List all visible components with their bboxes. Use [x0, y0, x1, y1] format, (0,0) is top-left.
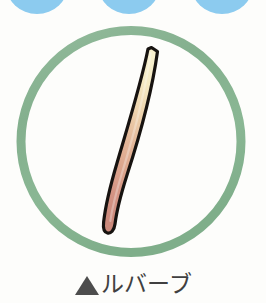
rhubarb-stalk-svg — [0, 0, 266, 266]
caption-label: ルバーブ — [101, 273, 192, 296]
rhubarb-stalk — [0, 0, 266, 266]
triangle-up-icon — [75, 276, 99, 295]
caption: ルバーブ — [0, 266, 266, 303]
illustration-page: ルバーブ — [0, 0, 266, 303]
